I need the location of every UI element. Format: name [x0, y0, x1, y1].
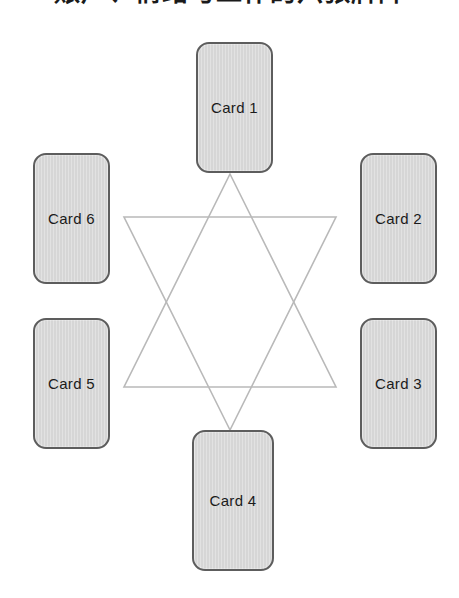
spread-card-5-label: Card 5 [48, 375, 95, 392]
spread-card-6[interactable]: Card 6 [33, 153, 110, 284]
spread-card-1-label: Card 1 [211, 99, 258, 116]
spread-card-2[interactable]: Card 2 [360, 153, 437, 284]
spread-card-3[interactable]: Card 3 [360, 318, 437, 449]
spread-card-6-label: Card 6 [48, 210, 95, 227]
spread-card-4[interactable]: Card 4 [192, 430, 274, 571]
hexagram-triangle-up [124, 174, 336, 387]
hexagram-triangle-down [124, 217, 336, 430]
spread-card-3-label: Card 3 [375, 375, 422, 392]
page-title: 账户、情绪与工作的六张牌阵 [0, 0, 459, 8]
tarot-spread-diagram: 账户、情绪与工作的六张牌阵 Card 1 Card 2 Card 3 Card … [0, 0, 459, 598]
spread-card-1[interactable]: Card 1 [196, 42, 273, 173]
spread-card-2-label: Card 2 [375, 210, 422, 227]
spread-card-5[interactable]: Card 5 [33, 318, 110, 449]
spread-card-4-label: Card 4 [210, 492, 257, 509]
